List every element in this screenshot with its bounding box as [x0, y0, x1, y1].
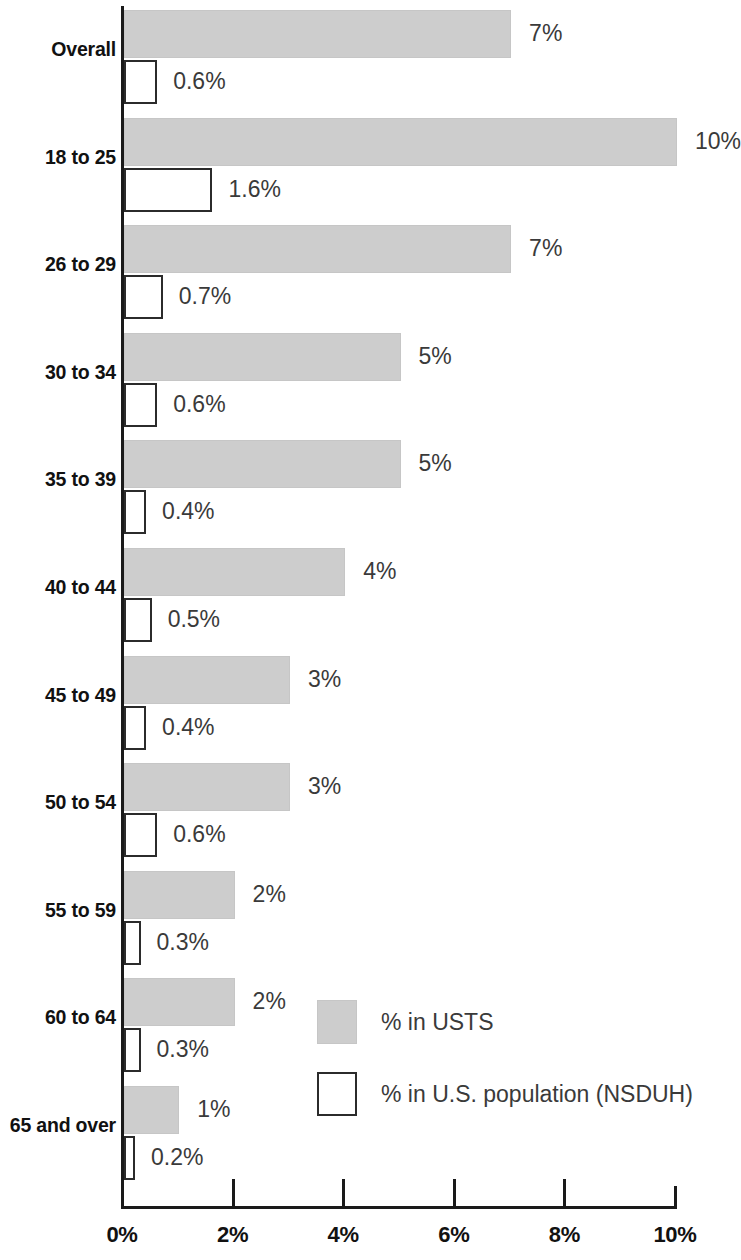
category-label: 50 to 54	[45, 793, 116, 813]
x-axis-tick-label: 4%	[328, 1222, 359, 1248]
bar-value-nsduh: 0.3%	[157, 931, 209, 954]
bar-nsduh	[124, 921, 141, 965]
bar-value-nsduh: 0.7%	[179, 285, 231, 308]
bar-value-nsduh: 0.3%	[157, 1038, 209, 1061]
bar-nsduh	[124, 383, 157, 427]
legend-item-usts: % in USTS	[317, 1000, 493, 1044]
bar-value-usts: 10%	[695, 130, 741, 153]
bar-usts	[124, 763, 290, 811]
bar-value-usts: 3%	[308, 668, 341, 691]
category-label: 40 to 44	[45, 578, 116, 598]
x-axis-tick-label: 8%	[549, 1222, 580, 1248]
bar-nsduh	[124, 490, 146, 534]
category-label: 60 to 64	[45, 1008, 116, 1028]
bar-value-nsduh: 0.2%	[151, 1146, 203, 1169]
bar-usts	[124, 548, 345, 596]
bar-value-nsduh: 0.4%	[162, 500, 214, 523]
bar-value-usts: 3%	[308, 775, 341, 798]
bar-nsduh	[124, 275, 163, 319]
bar-value-usts: 2%	[253, 990, 286, 1013]
x-axis-endcap	[674, 1186, 677, 1208]
bar-usts	[124, 871, 235, 919]
category-label: 55 to 59	[45, 901, 116, 921]
x-axis-tick	[232, 1179, 235, 1207]
category-group: 35 to 395%0.4%	[0, 440, 720, 534]
bar-nsduh	[124, 706, 146, 750]
x-axis-spine	[121, 1206, 677, 1209]
legend-label-nsduh: % in U.S. population (NSDUH)	[381, 1083, 693, 1106]
legend-swatch-usts-icon	[317, 1000, 357, 1044]
bar-value-usts: 2%	[253, 883, 286, 906]
bar-value-usts: 5%	[419, 345, 452, 368]
bar-value-usts: 5%	[419, 452, 452, 475]
x-axis-tick	[563, 1179, 566, 1207]
category-group: 40 to 444%0.5%	[0, 548, 720, 642]
x-axis-tick-label: 0%	[106, 1222, 137, 1248]
category-label: 18 to 25	[45, 148, 116, 168]
bar-value-usts: 7%	[529, 22, 562, 45]
category-label: Overall	[51, 40, 116, 60]
category-group: 55 to 592%0.3%	[0, 871, 720, 965]
x-axis-tick-label: 10%	[653, 1222, 696, 1248]
x-axis-tick	[342, 1179, 345, 1207]
category-group: 18 to 2510%1.6%	[0, 118, 720, 212]
category-label: 65 and over	[10, 1116, 116, 1136]
bar-value-nsduh: 0.6%	[173, 823, 225, 846]
x-axis-tick	[453, 1179, 456, 1207]
category-label: 35 to 39	[45, 470, 116, 490]
bar-value-nsduh: 0.5%	[168, 608, 220, 631]
category-group: 26 to 297%0.7%	[0, 225, 720, 319]
bar-value-usts: 4%	[363, 560, 396, 583]
legend-swatch-nsduh-icon	[317, 1072, 357, 1116]
bar-nsduh	[124, 1136, 135, 1180]
bar-value-usts: 1%	[197, 1098, 230, 1121]
bar-value-nsduh: 1.6%	[228, 178, 280, 201]
bar-nsduh	[124, 813, 157, 857]
bar-nsduh	[124, 60, 157, 104]
category-label: 45 to 49	[45, 686, 116, 706]
x-axis-tick-label: 6%	[438, 1222, 469, 1248]
bar-value-nsduh: 0.4%	[162, 716, 214, 739]
x-axis-endcap	[121, 1186, 124, 1208]
category-label: 30 to 34	[45, 363, 116, 383]
bar-usts	[124, 440, 401, 488]
bar-usts	[124, 333, 401, 381]
bar-value-nsduh: 0.6%	[173, 70, 225, 93]
category-group: 50 to 543%0.6%	[0, 763, 720, 857]
bar-usts	[124, 10, 511, 58]
bar-usts	[124, 225, 511, 273]
bar-value-usts: 7%	[529, 237, 562, 260]
bar-usts	[124, 1086, 179, 1134]
bar-usts	[124, 118, 677, 166]
bar-usts	[124, 978, 235, 1026]
x-axis-tick-label: 2%	[217, 1222, 248, 1248]
legend-label-usts: % in USTS	[381, 1011, 493, 1034]
category-group: 45 to 493%0.4%	[0, 656, 720, 750]
bar-value-nsduh: 0.6%	[173, 393, 225, 416]
legend-item-nsduh: % in U.S. population (NSDUH)	[317, 1072, 693, 1116]
category-label: 26 to 29	[45, 255, 116, 275]
category-group: 30 to 345%0.6%	[0, 333, 720, 427]
bar-usts	[124, 656, 290, 704]
category-group: Overall7%0.6%	[0, 10, 720, 104]
bar-nsduh	[124, 598, 152, 642]
bar-nsduh	[124, 1028, 141, 1072]
bar-nsduh	[124, 168, 212, 212]
